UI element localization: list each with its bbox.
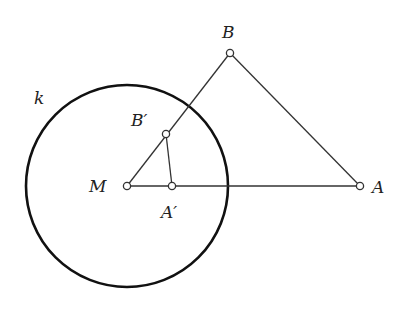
label-a-prime: A′ — [159, 202, 177, 222]
segment-b-a — [230, 53, 360, 186]
label-b-prime: B′ — [130, 110, 147, 130]
label-b: B — [221, 22, 235, 42]
point-m — [123, 182, 130, 189]
point-b — [226, 49, 233, 56]
geometry-diagram: k M A B A′ B′ — [0, 0, 408, 310]
label-a: A — [370, 177, 384, 197]
point-a — [356, 182, 363, 189]
point-a-prime — [168, 182, 175, 189]
label-k: k — [34, 88, 44, 108]
segment-a-prime-b-prime — [166, 134, 172, 186]
label-m: M — [88, 176, 107, 196]
point-b-prime — [162, 130, 169, 137]
